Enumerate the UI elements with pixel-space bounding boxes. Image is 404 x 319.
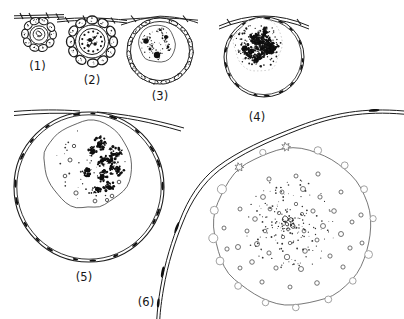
stage-3-label: (3) (152, 89, 168, 103)
stage-1-label: (1) (29, 59, 45, 73)
oogenesis-stage-diagram: (1) (2) (3) (4) (5) (6) (0, 0, 404, 319)
stage-1-follicle (14, 13, 64, 53)
figure-canvas: (1) (2) (3) (4) (5) (6) (0, 0, 404, 319)
stage-6-label: (6) (138, 295, 154, 309)
stage-2-label: (2) (84, 73, 100, 87)
stage-6-oocyte (209, 142, 376, 311)
stage-2-follicle (57, 16, 127, 68)
stage-3-follicle (121, 16, 198, 85)
stage-4-label: (4) (249, 110, 265, 124)
stage-4-follicle (219, 16, 309, 97)
stage-5-label: (5) (76, 270, 92, 284)
stage-5-follicle (14, 110, 184, 262)
